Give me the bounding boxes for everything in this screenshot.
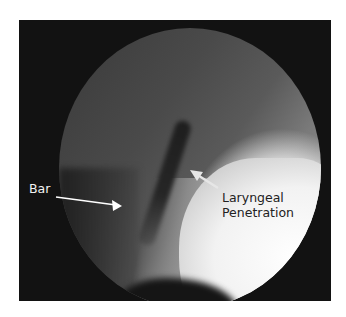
laryngeal-penetration-label-line2: Penetration — [222, 205, 294, 220]
laryngeal-penetration-label: Laryngeal Penetration — [222, 190, 294, 220]
laryngeal-penetration-arrow-icon — [190, 170, 218, 188]
laryngeal-penetration-label-line1: Laryngeal — [222, 190, 294, 205]
bar-label: Bar — [29, 181, 50, 196]
bar-arrow-icon — [56, 197, 122, 211]
annotation-arrows — [0, 0, 346, 317]
